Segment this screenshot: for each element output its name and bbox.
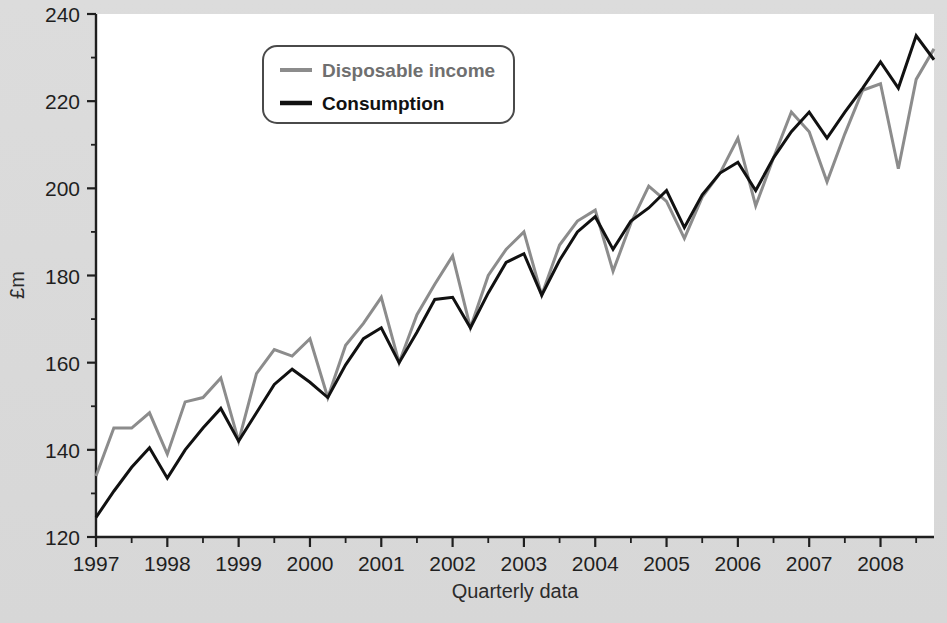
x-tick-label: 1997	[73, 552, 120, 575]
x-tick-label: 2001	[358, 552, 405, 575]
y-tick-label: 200	[45, 177, 80, 200]
x-tick-label: 2005	[643, 552, 690, 575]
y-tick-label: 220	[45, 90, 80, 113]
x-tick-label: 2002	[429, 552, 476, 575]
x-axis-title: Quarterly data	[452, 580, 580, 602]
x-tick-label: 2008	[857, 552, 904, 575]
x-tick-label: 1998	[144, 552, 191, 575]
x-tick-label: 1999	[215, 552, 262, 575]
legend-label-disposable-income: Disposable income	[322, 60, 495, 81]
y-tick-label: 180	[45, 265, 80, 288]
x-axis-ticks: 1997199819992000200120022003200420052006…	[73, 537, 917, 575]
x-tick-label: 2004	[572, 552, 619, 575]
line-chart: 120140160180200220240 199719981999200020…	[0, 0, 947, 623]
y-tick-label: 160	[45, 352, 80, 375]
x-tick-label: 2000	[287, 552, 334, 575]
x-tick-label: 2003	[501, 552, 548, 575]
y-tick-label: 140	[45, 439, 80, 462]
y-tick-label: 240	[45, 3, 80, 26]
y-axis-ticks: 120140160180200220240	[45, 3, 96, 549]
x-tick-label: 2006	[715, 552, 762, 575]
chart-legend[interactable]: Disposable income Consumption	[263, 46, 514, 123]
legend-label-consumption: Consumption	[322, 93, 444, 114]
chart-figure: 120140160180200220240 199719981999200020…	[0, 0, 947, 623]
y-tick-label: 120	[45, 526, 80, 549]
x-tick-label: 2007	[786, 552, 833, 575]
y-axis-title: £m	[6, 271, 28, 299]
